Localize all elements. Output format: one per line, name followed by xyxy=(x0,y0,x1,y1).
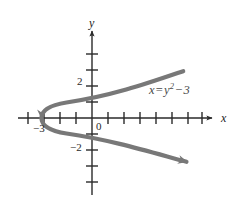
equation-constant: 3 xyxy=(183,83,189,97)
y-axis xyxy=(86,31,98,195)
origin-label: 0 xyxy=(96,121,102,132)
parabola-lower-branch xyxy=(42,118,187,162)
coordinate-plane-svg xyxy=(0,0,242,207)
x-axis xyxy=(18,112,212,124)
equation-lhs: x xyxy=(149,83,155,97)
equation-equals: = xyxy=(155,83,164,97)
x-tick-label-minus-3: −3 xyxy=(33,123,45,134)
equation-annotation: x=y2−3 xyxy=(149,84,190,97)
y-tick-label-minus-2: −2 xyxy=(70,142,82,153)
x-axis-label: x xyxy=(221,112,226,124)
graph-figure: x y 0 2 −2 −3 x=y2−3 xyxy=(0,0,242,207)
y-tick-label-2: 2 xyxy=(77,76,83,87)
y-axis-label: y xyxy=(89,17,94,29)
